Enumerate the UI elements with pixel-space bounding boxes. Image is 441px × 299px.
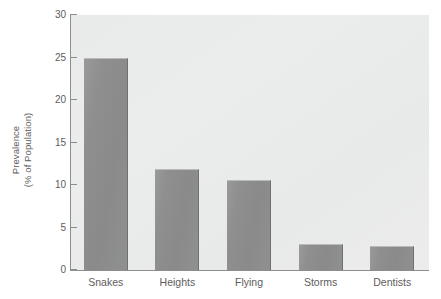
y-tick-25 — [70, 57, 77, 58]
y-tick-label-15: 15 — [55, 138, 66, 148]
y-tick-label-30: 30 — [55, 10, 66, 20]
y-tick-label-5: 5 — [60, 223, 66, 233]
bar-storms — [299, 244, 343, 270]
x-label-dentists: Dentists — [356, 276, 428, 288]
y-tick-20 — [70, 99, 77, 100]
y-tick-label-20: 20 — [55, 95, 66, 105]
y-tick-label-25: 25 — [55, 53, 66, 63]
y-tick-15 — [70, 142, 77, 143]
x-label-snakes: Snakes — [70, 276, 142, 288]
y-tick-label-10: 10 — [55, 180, 66, 190]
bar-flying — [227, 180, 271, 270]
y-axis-title-line-1: Prevalence — [10, 112, 22, 187]
y-tick-10 — [70, 184, 77, 185]
x-label-flying: Flying — [213, 276, 285, 288]
y-axis-title-line-2: (% of Population) — [22, 112, 34, 187]
y-tick-label-0: 0 — [60, 265, 66, 275]
y-tick-5 — [70, 227, 77, 228]
bar-chart: Prevalence (% of Population) 05101520253… — [0, 0, 441, 299]
y-tick-0 — [70, 269, 77, 270]
bar-heights — [155, 169, 199, 270]
x-label-storms: Storms — [285, 276, 357, 288]
x-label-heights: Heights — [142, 276, 214, 288]
y-tick-30 — [70, 14, 77, 15]
bar-snakes — [84, 58, 128, 271]
y-axis-title: Prevalence (% of Population) — [0, 0, 44, 299]
bar-dentists — [370, 246, 414, 270]
